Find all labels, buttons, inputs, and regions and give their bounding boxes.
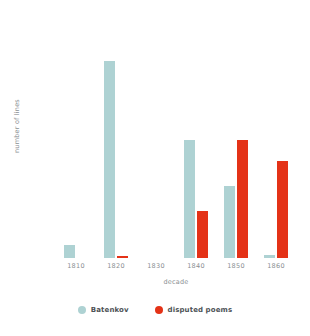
bar-group (56, 24, 96, 258)
bar (117, 256, 128, 258)
bar (237, 140, 248, 258)
x-axis-tick-label: 1840 (176, 262, 216, 270)
x-axis-title: decade (56, 278, 296, 286)
bar-chart: number of lines 0100200300400500600 1810… (0, 0, 310, 336)
x-axis-tick-label: 1820 (96, 262, 136, 270)
legend-item-label: Batenkov (91, 306, 129, 314)
x-axis-tick-label: 1860 (256, 262, 296, 270)
bar-group (136, 24, 176, 258)
plot-area (56, 24, 296, 258)
bar (277, 161, 288, 259)
bar-group (96, 24, 136, 258)
bar (264, 255, 275, 258)
bar (104, 61, 115, 258)
chart-legend: Batenkovdisputed poems (0, 306, 310, 314)
bar (224, 186, 235, 258)
legend-item[interactable]: Batenkov (78, 306, 129, 314)
bar (197, 211, 208, 258)
bar (64, 245, 75, 258)
bar-group (176, 24, 216, 258)
bar (184, 140, 195, 258)
x-axis-tick-label: 1850 (216, 262, 256, 270)
bar-group (256, 24, 296, 258)
legend-item[interactable]: disputed poems (155, 306, 233, 314)
y-axis-tick-labels: 0100200300400500600 (0, 0, 60, 336)
x-axis-tick-labels: 181018201830184018501860 (56, 262, 296, 276)
x-axis-tick-label: 1830 (136, 262, 176, 270)
x-axis-tick-label: 1810 (56, 262, 96, 270)
circle-swatch-icon (155, 306, 163, 314)
bar-group (216, 24, 256, 258)
circle-swatch-icon (78, 306, 86, 314)
legend-item-label: disputed poems (168, 306, 233, 314)
